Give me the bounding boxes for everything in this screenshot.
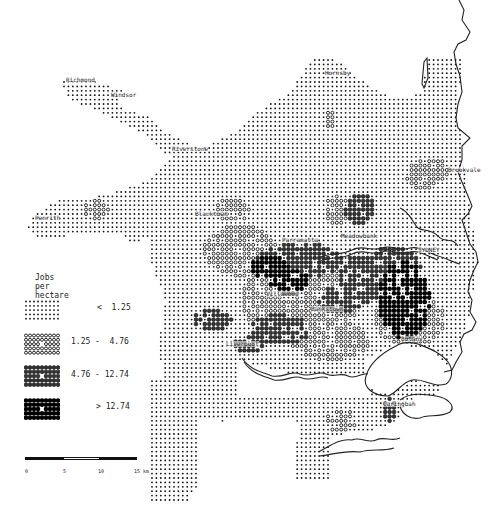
place-label-blacktown: Blacktown [195, 211, 228, 217]
legend-label-low: < 1.25 [97, 303, 131, 312]
scale-tick-10: 10 [98, 468, 104, 474]
place-label-riverstone: Riverstone [172, 146, 208, 152]
scale-tick-0: 0 [25, 468, 28, 474]
legend-label-medium: 1.25 - 4.76 [71, 337, 129, 346]
place-label-hornsby: Hornsby [325, 70, 350, 76]
place-label-windsor: Windsor [111, 92, 136, 98]
scale-tick-15: 15 km [134, 468, 149, 474]
legend-swatch-very-high [24, 398, 60, 420]
legend-label-high: 4.76 - 12.74 [71, 370, 129, 379]
place-label-villawood: Villawood [266, 291, 299, 297]
density-map: RichmondWindsorRiverstoneHornsbyBrookval… [0, 0, 493, 523]
place-label-penrith: Penrith [35, 215, 60, 221]
place-label-liverpool: Liverpool [226, 341, 259, 347]
legend-swatch-low [24, 299, 60, 321]
place-label-parramatta: Parramatta [282, 237, 318, 243]
place-label-meadowbank: Meadowbank [341, 233, 377, 239]
place-label-richmond: Richmond [66, 77, 95, 83]
legend-title: Jobs per hectare [35, 273, 69, 300]
place-label-sydney: SYDNEY [418, 247, 440, 253]
legend-swatch-high [24, 365, 60, 387]
place-label-brookvale: Brookvale [448, 167, 481, 173]
legend-swatch-medium [24, 333, 60, 355]
scale-tick-5: 5 [63, 468, 66, 474]
place-label-bankstown: Bankstown [311, 306, 344, 312]
place-label-caringbah: Caringbah [383, 401, 416, 407]
place-label-botany: Botany [401, 336, 423, 342]
legend-label-very-high: > 12.74 [96, 402, 130, 411]
